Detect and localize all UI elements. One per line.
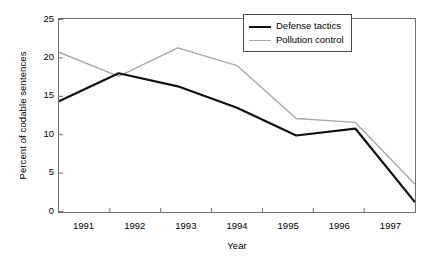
series-line bbox=[60, 48, 415, 184]
legend-item-pollution-control: Pollution control bbox=[249, 33, 344, 47]
y-tick-label: 20 bbox=[30, 52, 54, 62]
line-chart-figure: Percent of codable sentences 0510152025 … bbox=[0, 0, 440, 263]
y-tick-label: 25 bbox=[30, 14, 54, 24]
legend-label-pollution-control: Pollution control bbox=[276, 33, 344, 47]
x-axis-title: Year bbox=[58, 240, 416, 251]
y-tick-label: 0 bbox=[30, 206, 54, 216]
x-tick-label: 1991 bbox=[58, 218, 109, 234]
y-tick-label: 10 bbox=[30, 129, 54, 139]
y-axis-tick-labels: 0510152025 bbox=[26, 0, 54, 263]
x-tick-label: 1996 bbox=[314, 218, 365, 234]
x-tick-label: 1995 bbox=[263, 218, 314, 234]
series-line bbox=[60, 73, 415, 201]
y-tick-label: 15 bbox=[30, 90, 54, 100]
x-axis-tick-labels: 1991199219931994199519961997 bbox=[58, 218, 416, 234]
series-canvas bbox=[59, 19, 415, 212]
y-tick-label: 5 bbox=[30, 167, 54, 177]
plot-area bbox=[58, 18, 416, 213]
x-tick-label: 1997 bbox=[365, 218, 416, 234]
legend-label-defense-tactics: Defense tactics bbox=[276, 19, 341, 33]
legend-swatch-defense-tactics bbox=[249, 20, 271, 32]
chart-legend: Defense tactics Pollution control bbox=[243, 14, 352, 52]
x-tick-label: 1994 bbox=[211, 218, 262, 234]
legend-swatch-pollution-control bbox=[249, 34, 271, 46]
legend-item-defense-tactics: Defense tactics bbox=[249, 19, 344, 33]
x-tick-label: 1993 bbox=[160, 218, 211, 234]
x-tick-label: 1992 bbox=[109, 218, 160, 234]
